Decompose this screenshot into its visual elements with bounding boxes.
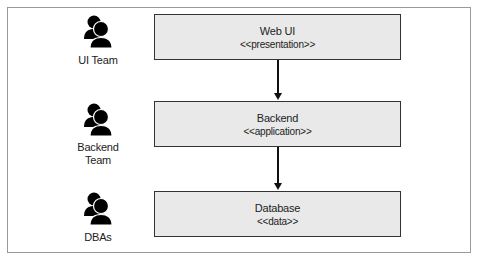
layer-stereotype: <<presentation>> [155, 38, 400, 51]
team-ui: UI Team [58, 14, 138, 67]
team-label-line-1: Backend [58, 141, 138, 154]
layer-stereotype: <<application>> [155, 125, 400, 138]
layer-stereotype: <<data>> [155, 215, 400, 228]
team-backend: Backend Team [58, 102, 138, 167]
layer-backend: Backend <<application>> [154, 101, 401, 147]
team-label: UI Team [58, 54, 138, 67]
people-group-icon [83, 102, 113, 140]
team-label: DBAs [58, 231, 138, 244]
people-group-icon [83, 191, 113, 229]
layer-title: Backend [155, 111, 400, 125]
arrowhead-icon [274, 93, 282, 100]
layer-web-ui: Web UI <<presentation>> [154, 14, 401, 60]
layer-title: Database [155, 201, 400, 215]
layer-database: Database <<data>> [154, 191, 401, 237]
arrowhead-icon [274, 183, 282, 190]
team-label-line-2: Team [58, 154, 138, 167]
layer-title: Web UI [155, 24, 400, 38]
arrow-webui-to-backend [277, 60, 279, 94]
team-dbas: DBAs [58, 191, 138, 244]
arrow-backend-to-database [277, 147, 279, 184]
people-group-icon [83, 14, 113, 52]
